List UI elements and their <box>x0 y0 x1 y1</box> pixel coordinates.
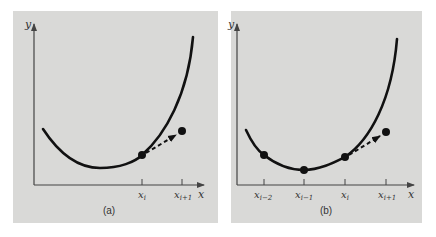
point-x-i <box>341 153 349 161</box>
point-x-i <box>138 151 146 159</box>
tick-label-x-i-minus-2: xi−2 <box>254 189 273 202</box>
tick-label-x-i-plus-1: xi+1 <box>174 189 192 202</box>
x-axis-label: x <box>198 188 205 201</box>
y-axis-label: y <box>227 18 235 31</box>
figure-svg: y x xi xi+1 (a) y x xi−2 xi−1 xi <box>0 0 436 237</box>
point-x-i-minus-1 <box>300 166 308 174</box>
caption-b: (b) <box>320 205 332 216</box>
caption-a: (a) <box>103 205 115 216</box>
extrapolation-arrow <box>146 135 176 153</box>
panel-a: y x xi xi+1 (a) <box>24 18 205 216</box>
x-axis-label: x <box>408 188 415 201</box>
point-x-i-plus-1 <box>178 127 186 135</box>
function-curve <box>43 37 193 168</box>
tick-label-x-i-plus-1: xi+1 <box>378 189 396 202</box>
point-x-i-plus-1 <box>382 128 390 136</box>
tick-label-x-i-minus-1: xi−1 <box>295 189 313 202</box>
point-x-i-minus-2 <box>260 151 268 159</box>
tick-label-x-i: xi <box>341 189 349 202</box>
tick-label-x-i: xi <box>138 189 146 202</box>
function-curve <box>246 39 397 170</box>
panel-b: y x xi−2 xi−1 xi xi+1 (b) <box>227 18 415 216</box>
y-axis-label: y <box>24 18 32 31</box>
